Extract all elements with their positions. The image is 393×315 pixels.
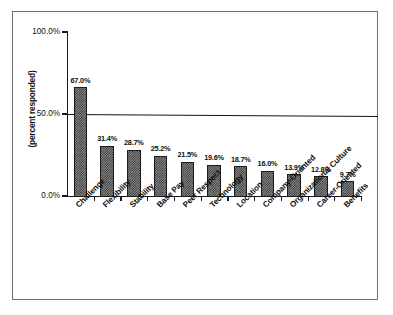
plot-area: (percent responded) 100.0%50.0%0.0% 67.0… <box>0 0 393 315</box>
x-axis-category-labels: ChallengeFlexibilityStabilityBase PayPee… <box>0 0 393 315</box>
figure: (percent responded) 100.0%50.0%0.0% 67.0… <box>0 0 393 315</box>
category-label-2: Stability <box>128 182 156 210</box>
category-label-10: Benefits <box>342 181 370 209</box>
category-label-3: Base Pay <box>155 178 186 209</box>
